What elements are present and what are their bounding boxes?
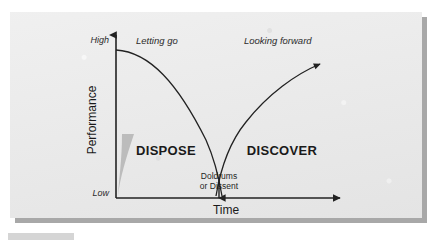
y-axis-low-label: Low bbox=[92, 188, 109, 198]
y-axis-title: Performance bbox=[85, 85, 99, 154]
panel-drop-shadow-right bbox=[422, 17, 427, 218]
doldrums-shaded-region bbox=[118, 134, 134, 196]
y-axis-high-label: High bbox=[90, 35, 109, 45]
caption-artifact-bar bbox=[8, 233, 74, 240]
doldrums-label-line1: Doldrums bbox=[201, 171, 237, 181]
panel-drop-shadow-bottom bbox=[15, 218, 427, 223]
looking-forward-annotation: Looking forward bbox=[244, 35, 312, 46]
x-axis-title: Time bbox=[213, 203, 240, 217]
discover-label: DISCOVER bbox=[247, 143, 318, 158]
doldrums-label-line2: or Dissent bbox=[200, 181, 239, 191]
change-curve-chart: High Low Performance Time Letting go Loo… bbox=[10, 12, 422, 218]
dispose-label: DISPOSE bbox=[136, 143, 196, 158]
figure-panel: High Low Performance Time Letting go Loo… bbox=[10, 12, 422, 218]
letting-go-annotation: Letting go bbox=[136, 35, 178, 46]
